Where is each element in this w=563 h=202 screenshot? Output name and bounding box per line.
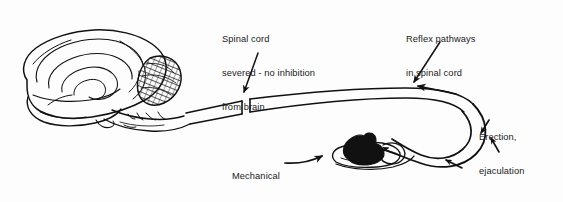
cerebrum-sulcus-central (74, 79, 106, 99)
label-mechanical-stimulation: Mechanical stimulation (232, 148, 280, 202)
label-mechanical-stimulation-line1: Mechanical (232, 171, 280, 182)
cranial-nerve-root-4 (158, 112, 165, 119)
cerebrum-gyrus-mid (49, 54, 133, 89)
medulla-fold (120, 122, 164, 126)
reflex-diagram-figure: Spinal cord severed - no inhibition from… (0, 0, 563, 202)
label-reflex-pathways-line1: Reflex pathways (406, 34, 476, 45)
lateral-fissure (33, 89, 120, 101)
label-erection-ejaculation: Erection, ejaculation (479, 109, 524, 200)
label-erection-ejaculation-line1: Erection, (479, 132, 524, 143)
label-reflex-pathways: Reflex pathways in spinal cord (406, 11, 476, 102)
label-erection-ejaculation-line2: ejaculation (479, 166, 524, 177)
label-spinal-cord-severed-line3: from brain (222, 102, 315, 113)
mechanical-stimulation-arrow (285, 156, 322, 163)
cranial-nerve-root-2 (137, 113, 143, 120)
brain-group (24, 30, 190, 131)
genitalia-group (285, 133, 414, 169)
label-reflex-pathways-line2: in spinal cord (406, 68, 476, 79)
cerebrum-gyrus-inner (62, 67, 118, 99)
label-genitalia: genitalia (383, 180, 418, 202)
brainstem-lower (104, 119, 190, 131)
label-spinal-cord-severed: Spinal cord severed - no inhibition from… (222, 11, 315, 136)
label-spinal-cord-severed-line1: Spinal cord (222, 34, 315, 45)
pituitary-hook (96, 120, 114, 128)
label-spinal-cord-severed-line2: severed - no inhibition (222, 68, 315, 79)
